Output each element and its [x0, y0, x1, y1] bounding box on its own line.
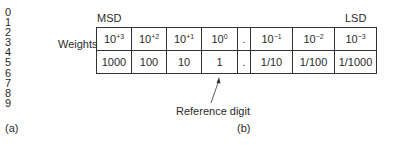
reference-arrow-icon — [0, 0, 394, 156]
caption-b: (b) — [237, 122, 250, 134]
reference-digit-label: Reference digit — [176, 105, 250, 117]
